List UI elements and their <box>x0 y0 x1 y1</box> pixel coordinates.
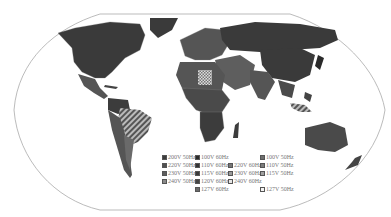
region-philippines <box>304 92 312 102</box>
legend-swatch-icon <box>260 171 265 176</box>
region-madagascar <box>233 122 239 138</box>
legend-item: 120V 60Hz <box>195 177 229 185</box>
legend-swatch-icon <box>195 179 200 184</box>
region-indonesia <box>290 103 312 112</box>
legend-item: 220V 60Hz <box>228 161 262 169</box>
legend-label: 110V 60Hz <box>201 162 229 168</box>
legend-swatch-icon <box>195 163 200 168</box>
legend-label: 127V 50Hz <box>266 186 294 192</box>
legend-label: 110V 50Hz <box>266 162 294 168</box>
legend-swatch-icon <box>195 171 200 176</box>
region-russia <box>220 22 338 52</box>
region-japan <box>315 55 324 70</box>
legend-swatch-icon <box>228 179 233 184</box>
legend-swatch-icon <box>162 155 167 160</box>
legend-label: 240V 50Hz <box>168 178 196 184</box>
region-greenland <box>150 18 178 38</box>
legend-label: 200V 50Hz <box>168 154 196 160</box>
legend-label: 100V 60Hz <box>201 154 229 160</box>
legend-swatch-icon <box>162 179 167 184</box>
legend-swatch-icon <box>195 155 200 160</box>
legend-label: 100V 50Hz <box>266 154 294 160</box>
legend-item: 230V 50Hz <box>162 169 196 177</box>
legend-swatch-icon <box>228 171 233 176</box>
legend-swatch-icon <box>162 171 167 176</box>
legend-label: 127V 60Hz <box>201 186 229 192</box>
legend-swatch-icon <box>260 155 265 160</box>
legend-label: 230V 50Hz <box>168 170 196 176</box>
legend-swatch-icon <box>195 187 200 192</box>
legend-swatch-icon <box>162 163 167 168</box>
legend-item: 240V 60Hz <box>228 177 262 185</box>
legend-swatch-icon <box>228 163 233 168</box>
legend-item: 127V 60Hz <box>195 185 229 193</box>
legend-item: 220V 50Hz <box>162 161 196 169</box>
legend-item: 115V 60Hz <box>195 169 229 177</box>
region-north-america <box>58 22 145 78</box>
legend-item: 110V 50Hz <box>260 161 294 169</box>
legend-item: 110V 60Hz <box>195 161 229 169</box>
legend-swatch-icon <box>260 187 265 192</box>
region-southern-africa <box>200 112 224 142</box>
region-australia <box>305 122 348 152</box>
region-southeast-asia <box>278 80 295 98</box>
legend-swatch-icon <box>260 163 265 168</box>
legend-label: 240V 60Hz <box>234 178 262 184</box>
legend-item: 200V 50Hz <box>162 153 196 161</box>
legend-item: 100V 50Hz <box>260 153 294 161</box>
legend-item: 127V 50Hz <box>260 185 294 193</box>
legend-label: 115V 50Hz <box>266 170 294 176</box>
legend-label: 115V 60Hz <box>201 170 229 176</box>
legend-item: 230V 60Hz <box>228 169 262 177</box>
legend-label: 230V 60Hz <box>234 170 262 176</box>
legend-item: 115V 50Hz <box>260 169 294 177</box>
legend-item: 100V 60Hz <box>195 153 229 161</box>
region-caribbean <box>104 85 118 89</box>
region-new-zealand <box>345 155 362 170</box>
region-libya-sahara <box>198 70 212 85</box>
legend: 200V 50Hz220V 50Hz230V 50Hz240V 50Hz100V… <box>162 153 302 213</box>
legend-item: 240V 50Hz <box>162 177 196 185</box>
legend-label: 220V 60Hz <box>234 162 262 168</box>
legend-label: 120V 60Hz <box>201 178 229 184</box>
legend-label: 220V 50Hz <box>168 162 196 168</box>
region-central-africa <box>182 88 230 115</box>
